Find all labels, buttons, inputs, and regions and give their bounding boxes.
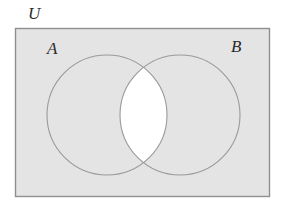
venn-diagram-figure: U A B [0,0,283,210]
set-b-label: B [231,38,241,55]
set-a-label: A [47,40,57,57]
venn-diagram-canvas [0,0,283,210]
universal-set-label: U [28,5,40,22]
